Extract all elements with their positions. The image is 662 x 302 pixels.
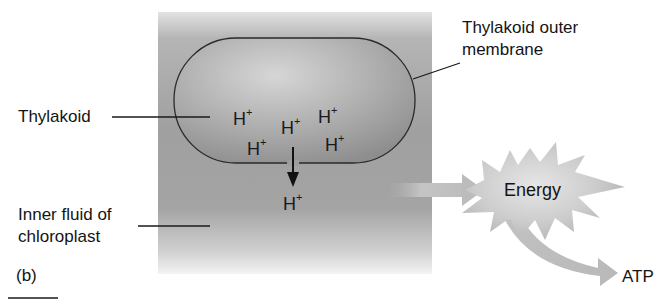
hydrogen-ion: H+ — [325, 134, 344, 156]
hydrogen-ion: H+ — [233, 108, 252, 130]
label-energy: Energy — [504, 180, 561, 200]
hydrogen-ion: H+ — [318, 106, 337, 128]
hydrogen-ion: H+ — [247, 138, 266, 160]
label-atp: ATP — [622, 267, 654, 287]
panel-label: (b) — [16, 266, 37, 286]
label-thylakoid: Thylakoid — [18, 107, 91, 127]
label-inner-fluid-2: chloroplast — [18, 227, 100, 247]
thylakoid-body — [174, 38, 415, 163]
energy-transfer-arrow-shaft — [390, 183, 467, 197]
hydrogen-ion: H+ — [281, 117, 300, 139]
label-thylakoid-outer-membrane-1: Thylakoid outer — [462, 18, 578, 38]
label-inner-fluid-1: Inner fluid of — [18, 205, 112, 225]
hydrogen-ion-exported: H+ — [283, 193, 302, 215]
label-thylakoid-outer-membrane-2: membrane — [462, 40, 543, 60]
